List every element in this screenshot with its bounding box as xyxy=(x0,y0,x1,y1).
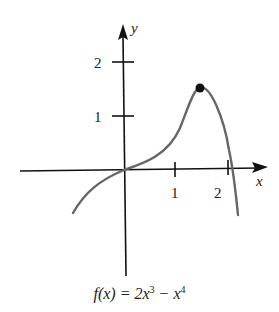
caption-prefix: f(x) = 2x xyxy=(93,285,149,302)
x-tick-label-2: 2 xyxy=(214,185,222,201)
x-axis-label: x xyxy=(255,173,263,189)
y-axis xyxy=(123,36,126,276)
function-caption: f(x) = 2x3 − x4 xyxy=(0,284,279,303)
x-tick-label-1: 1 xyxy=(171,185,179,201)
x-axis xyxy=(20,168,260,171)
y-tick-label-2: 2 xyxy=(94,55,102,71)
y-axis-label: y xyxy=(129,20,138,36)
caption-exponent-4: 4 xyxy=(181,284,186,295)
y-tick-label-1: 1 xyxy=(94,109,102,125)
function-graph: y x 1 2 1 2 xyxy=(0,0,279,312)
maximum-point xyxy=(196,84,205,93)
caption-mid: − x xyxy=(155,285,181,302)
